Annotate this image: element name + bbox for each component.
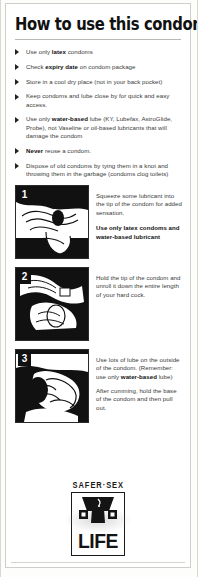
triangle-bullet-icon bbox=[15, 79, 19, 85]
body-text: reuse a condom. bbox=[43, 147, 91, 154]
title-divider bbox=[15, 39, 181, 40]
pamphlet-page: How to use this condom Use only latex co… bbox=[0, 0, 198, 577]
tip-item: Use only latex condoms bbox=[15, 48, 182, 56]
body-text: condoms bbox=[66, 48, 93, 55]
step-number-badge: 2 bbox=[18, 270, 31, 284]
triangle-bullet-icon bbox=[15, 49, 19, 55]
body-text: Hold the tip of the condom and unroll it… bbox=[96, 274, 181, 298]
tip-item: Check expiry date on condom package bbox=[15, 63, 182, 71]
triangle-bullet-icon bbox=[15, 64, 19, 70]
body-text: Check bbox=[26, 63, 45, 70]
tip-item: Dispose of old condoms by tying them in … bbox=[15, 162, 182, 179]
step-paragraph: Hold the tip of the condom and unroll it… bbox=[96, 274, 182, 299]
tip-item: Store in a cool dry place (not in your b… bbox=[15, 78, 182, 86]
page-title: How to use this condom bbox=[15, 15, 180, 34]
tip-item: Use only water-based lube (KY, Lubefax, … bbox=[15, 115, 182, 140]
step-number-badge: 1 bbox=[18, 188, 31, 202]
emphasis-text: water-based bbox=[52, 115, 88, 122]
triangle-bullet-icon bbox=[15, 117, 19, 123]
body-text: Use only bbox=[26, 48, 52, 55]
step-paragraph: Use lots of lube on the outside of the c… bbox=[96, 356, 182, 381]
step-number-badge: 3 bbox=[18, 352, 31, 366]
step-illustration: 1 bbox=[15, 185, 89, 259]
body-text: Keep condoms and lube close by for quick… bbox=[26, 92, 169, 107]
body-text: on condom package bbox=[78, 63, 135, 70]
step-paragraph: Use only latex condoms and water-based l… bbox=[96, 223, 182, 241]
emphasis-text: water-based bbox=[121, 373, 157, 380]
body-text: lube) bbox=[157, 373, 173, 380]
brand-logo: SAFER·SEX LIFE bbox=[6, 474, 190, 556]
step-row: 3Use lots of lube on the outside of the … bbox=[15, 349, 182, 423]
triangle-bullet-icon bbox=[15, 94, 19, 100]
step-illustration: 3 bbox=[15, 349, 89, 423]
emphasis-text: Never bbox=[26, 147, 43, 154]
pamphlet-sheet: How to use this condom Use only latex co… bbox=[5, 3, 191, 568]
tips-list: Use only latex condomsCheck expiry date … bbox=[15, 48, 182, 178]
emphasis-text: Use only latex condoms and water-based l… bbox=[96, 224, 180, 240]
emphasis-text: expiry date bbox=[45, 63, 78, 70]
step-paragraph: After cumming, hold the base of the cond… bbox=[96, 387, 182, 412]
bottom-divider bbox=[11, 562, 185, 563]
logo-life-text: LIFE bbox=[74, 530, 122, 551]
tip-item: Keep condoms and lube close by for quick… bbox=[15, 92, 182, 109]
step-illustration: 2 bbox=[15, 267, 89, 341]
logo-safer-sex-text: SAFER·SEX bbox=[72, 479, 124, 491]
step-row: 2Hold the tip of the condom and unroll i… bbox=[15, 267, 182, 341]
triangle-bullet-icon bbox=[15, 163, 19, 169]
body-text: Store in a cool dry place (not in your b… bbox=[26, 78, 162, 85]
tip-item: Never reuse a condom. bbox=[15, 147, 182, 155]
body-text: Use only bbox=[26, 115, 52, 122]
steps-list: 1Squeeze some lubricant into the tip of … bbox=[15, 185, 182, 423]
step-paragraph: Squeeze some lubricant into the tip of t… bbox=[96, 192, 182, 217]
emphasis-text: latex bbox=[52, 48, 66, 55]
body-text: Dispose of old condoms by tying them in … bbox=[26, 162, 168, 177]
body-text: After cumming, hold the base of the cond… bbox=[96, 387, 177, 411]
step-text: Squeeze some lubricant into the tip of t… bbox=[89, 185, 182, 247]
body-text: Squeeze some lubricant into the tip of t… bbox=[96, 192, 182, 216]
logo-box: LIFE bbox=[71, 492, 125, 556]
step-text: Use lots of lube on the outside of the c… bbox=[89, 349, 182, 418]
triangle-bullet-icon bbox=[15, 148, 19, 154]
logo-figure-icon bbox=[72, 493, 124, 533]
step-row: 1Squeeze some lubricant into the tip of … bbox=[15, 185, 182, 259]
step-text: Hold the tip of the condom and unroll it… bbox=[89, 267, 182, 305]
